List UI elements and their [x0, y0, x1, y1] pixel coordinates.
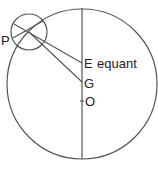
label-e: E: [84, 57, 93, 70]
label-equant: equant: [97, 57, 137, 70]
line-to-equant: [14, 24, 82, 63]
line-to-g: [29, 32, 82, 82]
label-p: P: [1, 34, 10, 47]
label-o: O: [85, 95, 95, 108]
epicycle-diagram: [0, 0, 158, 170]
label-g: G: [84, 77, 94, 90]
epicycle-chord: [13, 21, 43, 38]
